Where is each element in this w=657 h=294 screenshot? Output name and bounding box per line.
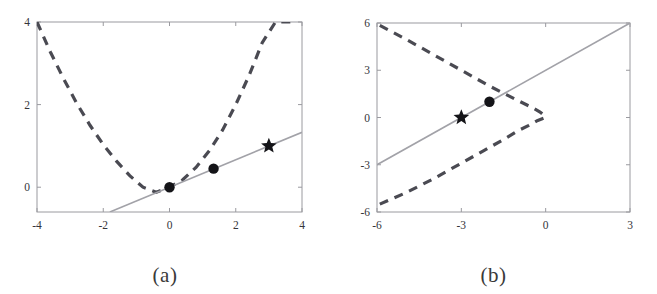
- series-group: [37, 22, 302, 212]
- series-group: [377, 23, 630, 204]
- y-tick-label: 3: [364, 64, 370, 76]
- x-tick-label: 0: [167, 219, 173, 231]
- x-tick-label: -6: [372, 219, 382, 231]
- y-tick-label: 0: [364, 112, 370, 124]
- x-tick-label: -3: [457, 219, 467, 231]
- y-tick-label: 4: [24, 16, 30, 28]
- marker-dot-iterate: [484, 97, 494, 107]
- marker-star-solution: [454, 109, 470, 124]
- marker-star-solution: [261, 138, 277, 153]
- marker-dot-iterate-0: [164, 182, 174, 192]
- x-tick-label: 0: [543, 219, 549, 231]
- plot-a: -4-2024024: [0, 0, 330, 250]
- series-constraint-curve-lower: [380, 118, 546, 205]
- y-tick-label: 6: [364, 17, 370, 29]
- marker-dot-iterate-1: [208, 163, 218, 173]
- plot-b: -6-303-6-3036: [330, 0, 657, 250]
- figure-container: -4-2024024 (a) -6-303-6-3036 (b): [0, 0, 657, 294]
- x-tick-label: 2: [233, 219, 239, 231]
- x-tick-label: 4: [299, 219, 305, 231]
- y-tick-label: -6: [360, 206, 370, 218]
- caption-b: (b): [330, 263, 657, 288]
- x-tick-label: -2: [98, 219, 108, 231]
- series-objective-curve: [37, 22, 295, 192]
- panel-a: -4-2024024 (a): [0, 0, 330, 294]
- x-tick-label: -4: [32, 219, 42, 231]
- y-tick-label: 2: [24, 99, 30, 111]
- series-constraint-curve-upper: [380, 25, 546, 116]
- y-tick-label: -3: [360, 159, 370, 171]
- x-tick-label: 3: [627, 219, 633, 231]
- y-tick-label: 0: [24, 181, 30, 193]
- caption-a: (a): [0, 263, 330, 288]
- panel-b: -6-303-6-3036 (b): [330, 0, 657, 294]
- plot-frame: [377, 23, 630, 212]
